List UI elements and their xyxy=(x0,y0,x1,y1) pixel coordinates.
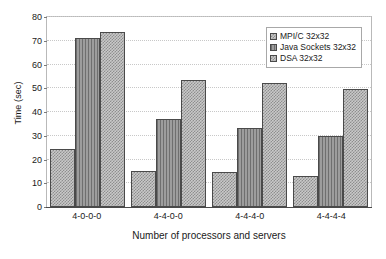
y-axis-title: Time (sec) xyxy=(13,58,23,148)
legend-item[interactable]: Java Sockets 32x32 xyxy=(270,42,356,53)
x-tick-label: 4-4-4-4 xyxy=(291,211,373,221)
bar[interactable] xyxy=(181,80,206,207)
bar[interactable] xyxy=(100,32,125,207)
x-axis-title: Number of processors and servers xyxy=(46,230,372,241)
bar[interactable] xyxy=(156,119,181,207)
legend-label: Java Sockets 32x32 xyxy=(280,42,356,53)
legend-item[interactable]: DSA 32x32 xyxy=(270,53,356,64)
legend-swatch-icon xyxy=(270,33,277,40)
y-tick-label: 40 xyxy=(32,107,42,117)
legend-swatch-icon xyxy=(270,44,277,51)
bar[interactable] xyxy=(237,128,262,207)
x-tick-label: 4-4-0-0 xyxy=(128,211,210,221)
x-axis-line xyxy=(46,207,372,208)
bar-group xyxy=(47,17,128,207)
bar[interactable] xyxy=(75,38,100,207)
bar[interactable] xyxy=(262,83,287,207)
y-tick-label: 60 xyxy=(32,60,42,70)
bar[interactable] xyxy=(293,176,318,207)
bar-group xyxy=(128,17,209,207)
y-tick-label: 30 xyxy=(32,131,42,141)
bar[interactable] xyxy=(212,172,237,207)
bar[interactable] xyxy=(50,149,75,207)
legend: MPI/C 32x32Java Sockets 32x32DSA 32x32 xyxy=(266,27,362,68)
bar-chart: Time (sec) 01020304050607080 4-0-0-04-4-… xyxy=(0,0,386,259)
y-tick-label: 0 xyxy=(37,202,42,212)
bar[interactable] xyxy=(318,136,343,207)
x-tick-label: 4-4-4-0 xyxy=(209,211,291,221)
legend-label: DSA 32x32 xyxy=(280,53,323,64)
bar[interactable] xyxy=(343,89,368,207)
y-tick-label: 20 xyxy=(32,155,42,165)
x-axis-tick-labels: 4-0-0-04-4-0-04-4-4-04-4-4-4 xyxy=(46,211,372,221)
legend-label: MPI/C 32x32 xyxy=(280,31,329,42)
x-tick-label: 4-0-0-0 xyxy=(46,211,128,221)
legend-swatch-icon xyxy=(270,55,277,62)
y-tick-label: 50 xyxy=(32,83,42,93)
y-tick-label: 70 xyxy=(32,36,42,46)
legend-item[interactable]: MPI/C 32x32 xyxy=(270,31,356,42)
y-tick-label: 80 xyxy=(32,12,42,22)
bar[interactable] xyxy=(131,171,156,207)
y-tick-label: 10 xyxy=(32,178,42,188)
